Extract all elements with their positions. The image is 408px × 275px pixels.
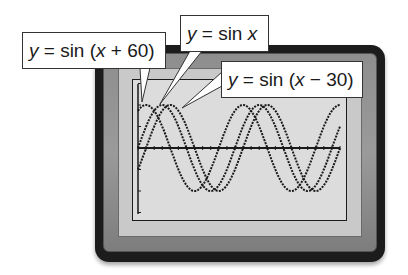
label-text-post: − 30)	[305, 69, 354, 90]
label-text-eq: = sin (	[39, 40, 97, 61]
label-text-x: x	[295, 69, 305, 90]
label-text-post: + 60)	[106, 40, 155, 61]
label-text-y: y	[228, 69, 238, 90]
label-text-y: y	[29, 40, 39, 61]
label-text-eq: = sin	[197, 23, 248, 44]
label-text-x: x	[248, 23, 258, 44]
label-sin-x: y = sin x	[180, 15, 269, 52]
label-sin-x-plus-60: y = sin (x + 60)	[22, 32, 166, 69]
label-sin-x-minus-30: y = sin (x − 30)	[221, 61, 363, 98]
label-text-x: x	[96, 40, 106, 61]
axes	[138, 84, 340, 215]
label-text-eq: = sin (	[238, 69, 296, 90]
label-text-y: y	[187, 23, 197, 44]
